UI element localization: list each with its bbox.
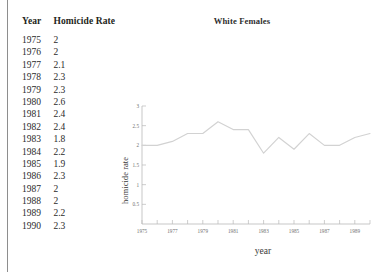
table-row: 19792.3 bbox=[22, 85, 115, 97]
cell-homicide-rate: 2.4 bbox=[53, 122, 115, 134]
table: Year Homicide Rate 197521976219772.11978… bbox=[22, 16, 115, 233]
cell-year: 1975 bbox=[22, 35, 53, 47]
cell-homicide-rate: 2.3 bbox=[53, 171, 115, 183]
table-row: 19831.8 bbox=[22, 134, 115, 146]
cell-homicide-rate: 2.2 bbox=[53, 208, 115, 220]
table-row: 19892.2 bbox=[22, 208, 115, 220]
x-tick-label: 1987 bbox=[319, 228, 330, 234]
y-tick-label: 0.5 bbox=[133, 201, 140, 207]
table-row: 19812.4 bbox=[22, 109, 115, 121]
x-tick-label: 1979 bbox=[198, 228, 209, 234]
table-row: 19752 bbox=[22, 35, 115, 47]
cell-year: 1990 bbox=[22, 221, 53, 233]
y-tick-label: 2 bbox=[136, 142, 139, 148]
cell-homicide-rate: 2.2 bbox=[53, 147, 115, 159]
table-row: 19782.3 bbox=[22, 72, 115, 84]
cell-homicide-rate: 2.3 bbox=[53, 85, 115, 97]
table-header-row: Year Homicide Rate bbox=[22, 16, 115, 35]
y-tick-label: 2.5 bbox=[133, 123, 140, 129]
cell-homicide-rate: 2.3 bbox=[53, 72, 115, 84]
cell-year: 1977 bbox=[22, 60, 53, 72]
cell-year: 1981 bbox=[22, 109, 53, 121]
y-axis: 0.511.522.53 bbox=[133, 103, 146, 224]
table-row: 19902.3 bbox=[22, 221, 115, 233]
table-row: 19822.4 bbox=[22, 122, 115, 134]
column-header-year: Year bbox=[22, 16, 53, 35]
cell-year: 1988 bbox=[22, 196, 53, 208]
cell-homicide-rate: 2 bbox=[53, 35, 115, 47]
cell-homicide-rate: 2.3 bbox=[53, 221, 115, 233]
table-row: 19851.9 bbox=[22, 159, 115, 171]
chart-canvas: 0.511.522.53 197519771979198119831985198… bbox=[108, 8, 376, 268]
table-row: 19872 bbox=[22, 184, 115, 196]
x-tick-label: 1975 bbox=[137, 228, 148, 234]
column-header-homicide-rate: Homicide Rate bbox=[53, 16, 115, 35]
cell-homicide-rate: 1.8 bbox=[53, 134, 115, 146]
cell-homicide-rate: 2 bbox=[53, 47, 115, 59]
page-left-rule bbox=[7, 0, 8, 272]
cell-year: 1979 bbox=[22, 85, 53, 97]
x-axis: 19751977197919811983198519871989 bbox=[137, 220, 370, 234]
series-line-white-females bbox=[142, 122, 370, 153]
cell-year: 1989 bbox=[22, 208, 53, 220]
series-group bbox=[142, 122, 370, 153]
cell-homicide-rate: 2 bbox=[53, 184, 115, 196]
x-tick-label: 1977 bbox=[167, 228, 178, 234]
cell-year: 1982 bbox=[22, 122, 53, 134]
x-tick-label: 1981 bbox=[228, 228, 239, 234]
cell-year: 1986 bbox=[22, 171, 53, 183]
x-tick-label: 1983 bbox=[258, 228, 269, 234]
cell-homicide-rate: 1.9 bbox=[53, 159, 115, 171]
cell-year: 1976 bbox=[22, 47, 53, 59]
x-tick-label: 1989 bbox=[350, 228, 361, 234]
cell-homicide-rate: 2.4 bbox=[53, 109, 115, 121]
table-row: 19882 bbox=[22, 196, 115, 208]
x-tick-label: 1985 bbox=[289, 228, 300, 234]
cell-year: 1983 bbox=[22, 134, 53, 146]
x-axis-label: year bbox=[188, 246, 338, 256]
line-chart: White Females homicide rate 0.511.522.53… bbox=[108, 8, 376, 268]
cell-year: 1978 bbox=[22, 72, 53, 84]
scanned-page: Year Homicide Rate 197521976219772.11978… bbox=[0, 0, 381, 272]
cell-homicide-rate: 2.6 bbox=[53, 97, 115, 109]
cell-homicide-rate: 2.1 bbox=[53, 60, 115, 72]
y-tick-label: 3 bbox=[136, 103, 139, 109]
table-row: 19762 bbox=[22, 47, 115, 59]
cell-year: 1984 bbox=[22, 147, 53, 159]
cell-homicide-rate: 2 bbox=[53, 196, 115, 208]
cell-year: 1987 bbox=[22, 184, 53, 196]
table-head: Year Homicide Rate bbox=[22, 16, 115, 35]
table-row: 19802.6 bbox=[22, 97, 115, 109]
table-row: 19842.2 bbox=[22, 147, 115, 159]
table-row: 19862.3 bbox=[22, 171, 115, 183]
y-tick-label: 1.5 bbox=[133, 162, 140, 168]
y-tick-label: 1 bbox=[136, 182, 139, 188]
table-row: 19772.1 bbox=[22, 60, 115, 72]
cell-year: 1985 bbox=[22, 159, 53, 171]
table-body: 197521976219772.119782.319792.319802.619… bbox=[22, 35, 115, 233]
cell-year: 1980 bbox=[22, 97, 53, 109]
